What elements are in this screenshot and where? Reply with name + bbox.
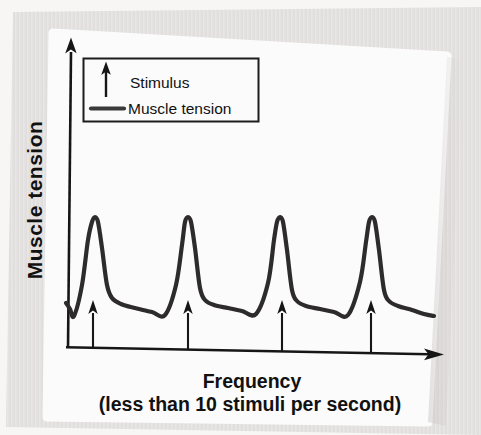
y-axis-label: Muscle tension xyxy=(23,121,46,280)
x-axis-label-line2: (less than 10 stimuli per second) xyxy=(99,393,401,415)
x-axis-label-line1: Frequency xyxy=(203,370,302,392)
figure-root: Stimulus Muscle tension Muscle tension F… xyxy=(0,0,481,435)
legend-tension-label: Muscle tension xyxy=(128,100,231,117)
legend-stimulus-label: Stimulus xyxy=(130,74,190,91)
